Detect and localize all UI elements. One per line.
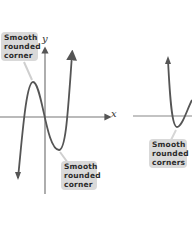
right-curve-start-arrow (165, 56, 171, 64)
left-curve-start-arrow (15, 172, 21, 180)
right-bottom-callout: Smooth rounded corners (149, 139, 187, 168)
callout-line-1: Smooth (152, 140, 184, 149)
callout-line-2: rounded (152, 149, 184, 158)
right-curve (168, 60, 192, 127)
callout-line-1: Smooth (4, 33, 35, 42)
callout-line-2: rounded (4, 42, 35, 51)
callout-line-3: corner (64, 180, 94, 189)
callout-line-3: corner (4, 51, 35, 60)
left-y-axis-label: y (42, 33, 48, 44)
callout-line-3: corners (152, 158, 184, 167)
callout-line-1: Smooth (64, 162, 94, 171)
callout-line-2: rounded (64, 171, 94, 180)
left-x-axis-label: x (111, 108, 117, 119)
left-top-callout-pointer (24, 62, 32, 80)
left-bottom-callout: Smooth rounded corner (61, 161, 97, 190)
left-top-callout: Smooth rounded corner (1, 32, 38, 61)
